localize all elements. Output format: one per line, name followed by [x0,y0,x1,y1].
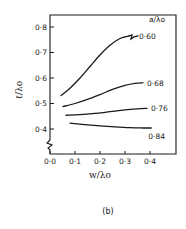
y-tick-label: 0·8 [35,23,47,32]
chart: 0·00·10·20·30·4 0·40·50·60·70·8 0·600·68… [0,0,186,229]
series-curve-4 [70,123,151,128]
series-label-2: 0·68 [147,79,164,88]
x-tick-label: 0·4 [144,157,156,166]
y-axis-ticks: 0·40·50·60·70·8 [35,23,54,134]
y-tick-label: 0·4 [35,125,47,134]
x-tick-label: 0·3 [119,157,131,166]
x-tick-label: 0·1 [69,157,81,166]
series-curve-2 [63,83,143,107]
y-tick-label: 0·6 [35,74,47,83]
series-curves [61,35,151,128]
series-curve-3 [66,108,147,115]
series-labels: 0·600·680·760·84 [139,32,168,141]
curve-break-icon [129,35,138,39]
x-axis-ticks: 0·00·10·20·30·4 [44,151,156,166]
y-tick-label: 0·7 [35,48,47,57]
y-tick-label: 0·5 [35,99,47,108]
x-axis-label: w/λo [89,170,111,180]
series-label-3: 0·76 [151,104,168,113]
x-tick-label: 0·2 [94,157,106,166]
series-label-4: 0·84 [148,132,165,141]
x-tick-label: 0·0 [44,157,56,166]
y-axis-label: ℓ/λo [14,81,24,99]
figure-caption: (b) [102,207,113,216]
legend-title: a/λo [149,15,166,24]
series-label-1: 0·60 [139,32,156,41]
